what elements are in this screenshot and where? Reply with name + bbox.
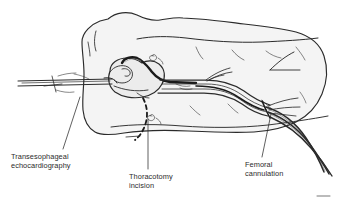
label-thoracotomy-incision: Thoracotomy incision bbox=[129, 172, 173, 191]
tee-probe-fan-2 bbox=[58, 73, 76, 76]
leader-line-tee bbox=[63, 97, 80, 149]
medical-illustration-figure: Transesophageal echocardiography Thoraco… bbox=[0, 0, 337, 205]
heart bbox=[109, 58, 165, 98]
label-transesophageal-echocardiography: Transesophageal echocardiography bbox=[11, 152, 71, 171]
label-femoral-cannulation: Femoral cannulation bbox=[245, 160, 283, 179]
tee-probe-fan-1 bbox=[56, 90, 74, 92]
tee-probe-cross-mark-1 bbox=[52, 76, 56, 92]
